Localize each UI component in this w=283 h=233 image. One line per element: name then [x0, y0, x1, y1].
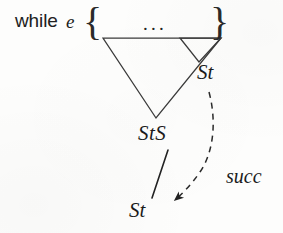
succ-dashed-edge [175, 92, 213, 200]
label-st-inner: St [197, 62, 213, 83]
condition-variable: e [66, 12, 74, 31]
body-elision: ... [143, 14, 167, 33]
label-succ-edge: succ [226, 166, 262, 186]
label-st-bottom: St [129, 200, 145, 221]
figure-canvas: while e { ... } St StS St succ [0, 0, 283, 233]
label-sts: StS [138, 123, 166, 144]
brace-close: } [210, 2, 229, 42]
sts-to-st-edge [152, 150, 168, 198]
keyword-while: while [15, 11, 58, 30]
brace-open: { [83, 2, 102, 42]
